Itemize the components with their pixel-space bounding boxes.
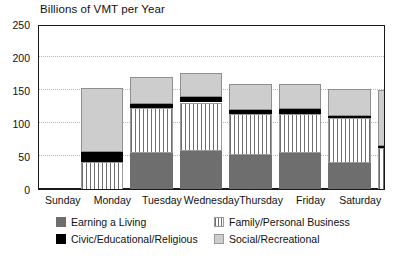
x-tick-label: Sunday	[45, 194, 81, 206]
bar-segment	[279, 114, 321, 154]
legend-item[interactable]: Family/Personal Business	[214, 216, 350, 228]
bar-segment	[279, 84, 321, 109]
bar-column	[378, 51, 385, 190]
legend-label: Social/Recreational	[229, 233, 319, 245]
legend-swatch-icon	[214, 234, 224, 244]
legend-swatch-icon	[56, 217, 66, 227]
bar-column	[328, 51, 370, 190]
bar-segment	[180, 73, 222, 97]
x-tick-label: Friday	[296, 194, 325, 206]
bar-segment	[180, 103, 222, 152]
y-tick-label: 0	[24, 185, 30, 195]
bar-column	[180, 51, 222, 190]
x-axis: SundayMondayTuesdayWednesdayThursdayFrid…	[38, 194, 385, 208]
bar-segment	[81, 88, 123, 152]
bar-segment	[328, 116, 370, 119]
bar-segment	[180, 151, 222, 190]
bar-segment	[378, 148, 385, 190]
bar-segment	[229, 155, 271, 190]
bar-segment	[328, 118, 370, 163]
bar-segment	[180, 97, 222, 102]
legend-item[interactable]: Civic/Educational/Religious	[56, 233, 198, 245]
bar-segment	[229, 84, 271, 110]
legend-swatch-icon	[214, 217, 224, 227]
x-tick-label: Wednesday	[184, 194, 239, 206]
bar-column	[130, 51, 172, 190]
y-axis: 050100150200250	[0, 25, 34, 190]
bar-segment	[130, 77, 172, 104]
bars-layer	[77, 51, 385, 190]
chart-legend: Earning a LivingFamily/Personal Business…	[56, 216, 386, 256]
bar-segment	[81, 162, 123, 190]
x-tick-label: Thursday	[239, 194, 283, 206]
legend-swatch-icon	[56, 234, 66, 244]
y-tick-label: 200	[12, 53, 30, 63]
plot-area	[38, 25, 385, 190]
legend-label: Family/Personal Business	[229, 216, 350, 228]
y-tick-label: 150	[12, 86, 30, 96]
y-tick-label: 100	[12, 119, 30, 129]
chart-title: Billions of VMT per Year	[40, 3, 165, 16]
bar-segment	[279, 109, 321, 114]
vmt-stacked-bar-chart: Billions of VMT per Year 050100150200250…	[0, 0, 396, 260]
bar-column	[229, 51, 271, 190]
bar-segment	[328, 163, 370, 190]
x-tick-label: Tuesday	[142, 194, 182, 206]
legend-label: Earning a Living	[71, 216, 146, 228]
bar-segment	[378, 90, 385, 146]
bar-segment	[130, 104, 172, 109]
bar-segment	[229, 110, 271, 114]
bar-segment	[378, 146, 385, 148]
y-tick-label: 250	[12, 20, 30, 30]
legend-label: Civic/Educational/Religious	[71, 233, 198, 245]
bar-column	[279, 51, 321, 190]
x-tick-label: Saturday	[339, 194, 381, 206]
bar-segment	[130, 153, 172, 190]
y-tick-label: 50	[18, 152, 30, 162]
bar-column	[81, 51, 123, 190]
x-tick-label: Monday	[94, 194, 131, 206]
bar-segment	[279, 153, 321, 190]
bar-segment	[229, 114, 271, 155]
legend-item[interactable]: Earning a Living	[56, 216, 146, 228]
bar-segment	[130, 108, 172, 152]
bar-segment	[328, 89, 370, 115]
bar-segment	[81, 152, 123, 162]
legend-item[interactable]: Social/Recreational	[214, 233, 319, 245]
